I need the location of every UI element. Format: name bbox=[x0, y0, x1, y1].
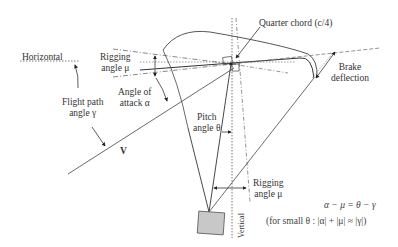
velocity-label: V bbox=[120, 146, 127, 157]
rigging-angle-bottom-label: Rigging angle μ bbox=[253, 178, 284, 200]
brake-deflection-label: Brake deflection bbox=[331, 62, 369, 84]
pitch-angle-label: Pitch angle θ bbox=[193, 112, 221, 134]
chord-extension-dash bbox=[232, 64, 288, 73]
suspension-line-center bbox=[209, 64, 231, 212]
flight-path-angle-label: Flight path angle γ bbox=[62, 97, 103, 119]
quarter-chord-label: Quarter chord (c/4) bbox=[259, 18, 332, 29]
angle-relation-equation: α − μ = θ − γ bbox=[324, 200, 376, 210]
canopy-upper-surface bbox=[163, 31, 317, 78]
angle-of-attack-arc bbox=[156, 78, 167, 101]
rigging-angle-top-label: Rigging angle μ bbox=[100, 52, 131, 74]
horizontal-label: Horizontal bbox=[22, 52, 63, 63]
brake-dotted bbox=[312, 53, 333, 78]
canopy-chord bbox=[140, 58, 314, 78]
velocity-pointer bbox=[92, 127, 105, 146]
flight-path-arrow bbox=[75, 65, 78, 88]
payload-box bbox=[197, 211, 224, 235]
canopy-left-line bbox=[163, 50, 188, 128]
rigging-dash-lower bbox=[113, 64, 232, 77]
suspension-line-left bbox=[188, 128, 209, 212]
angle-of-attack-label: Angle of attack α bbox=[118, 87, 152, 109]
quarter-chord-pointer bbox=[236, 27, 260, 58]
vertical-label: Vertical bbox=[237, 213, 246, 238]
small-theta-approximation: (for small θ : |α| + |μ| ≈ |γ|) bbox=[266, 216, 366, 226]
